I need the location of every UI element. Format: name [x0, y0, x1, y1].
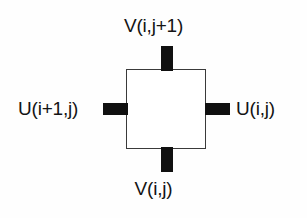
flux-bar-bottom: [161, 147, 173, 172]
flux-bar-top: [161, 46, 173, 71]
face-label-left: U(i+1,j): [18, 99, 78, 119]
flux-bar-right: [205, 103, 230, 115]
flux-bar-left: [103, 103, 128, 115]
face-label-bottom: V(i,j): [0, 179, 307, 199]
face-label-top: V(i,j+1): [0, 16, 307, 36]
control-volume-cell: [126, 69, 206, 149]
face-label-right: U(i,j): [236, 99, 275, 119]
control-volume-diagram: V(i,j+1) V(i,j) U(i+1,j) U(i,j): [0, 0, 307, 218]
